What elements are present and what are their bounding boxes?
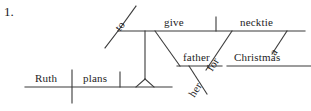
word-christmas: Christmas xyxy=(234,52,280,63)
word-necktie: necktie xyxy=(240,17,273,28)
word-give: give xyxy=(164,17,184,28)
indirect-object-slant xyxy=(155,31,180,66)
sentence-diagram-page: 1. Ruth plans to give necktie xyxy=(0,0,311,111)
word-plans: plans xyxy=(83,73,107,84)
infinitive-pedestal-leg-left xyxy=(136,79,145,87)
word-ruth: Ruth xyxy=(35,73,57,84)
infinitive-to-slant-lower xyxy=(105,31,118,48)
infinitive-pedestal-leg-right xyxy=(145,79,154,87)
